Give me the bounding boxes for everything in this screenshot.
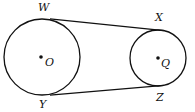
label-o: O xyxy=(45,56,54,69)
center-point-o xyxy=(39,55,43,59)
label-x: X xyxy=(154,11,164,24)
label-z: Z xyxy=(155,91,164,104)
tangent-yz xyxy=(50,85,164,95)
label-w: W xyxy=(38,1,51,14)
two-circles-tangent-diagram: W X O Q Y Z xyxy=(0,0,195,112)
label-y: Y xyxy=(39,98,48,111)
label-q: Q xyxy=(161,57,170,70)
center-point-q xyxy=(156,56,160,60)
